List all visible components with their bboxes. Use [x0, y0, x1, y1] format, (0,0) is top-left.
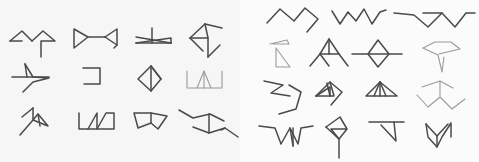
- glyph-right-r0-c0: [267, 8, 318, 32]
- glyph-left-r0-c1: [74, 29, 117, 48]
- glyph-right-r3-c2: [369, 122, 404, 141]
- glyph-left-r0-c2: [136, 28, 171, 43]
- glyph-stroke: [190, 38, 203, 51]
- glyph-left-r0-c3: [190, 24, 222, 57]
- glyph-stroke: [332, 9, 386, 24]
- glyph-right-r2-c3: [417, 81, 465, 109]
- glyph-stroke: [10, 31, 32, 41]
- glyph-right-r1-c2: [352, 40, 402, 67]
- glyph-left-r2-c2: [134, 113, 167, 129]
- glyph-right-r1-c0: [270, 40, 290, 67]
- glyph-stroke: [310, 54, 329, 66]
- glyph-left-r1-c0: [12, 64, 49, 92]
- glyph-stroke: [423, 48, 444, 72]
- glyph-stroke: [417, 95, 465, 109]
- glyph-left-r2-c0: [20, 108, 48, 135]
- glyph-stroke: [426, 124, 448, 136]
- glyph-stroke: [381, 122, 396, 141]
- glyph-left-r1-c3: [187, 71, 222, 88]
- glyph-left-r2-c3: [179, 110, 238, 137]
- glyph-left-r1-c2: [138, 66, 161, 91]
- glyph-stroke: [105, 29, 117, 45]
- glyph-stroke: [23, 64, 49, 92]
- glyph-stroke: [267, 8, 318, 32]
- glyph-stroke: [151, 66, 161, 79]
- glyph-stroke: [423, 42, 460, 54]
- glyph-stroke: [422, 81, 453, 88]
- glyph-stroke: [105, 37, 117, 48]
- glyph-right-r1-c3: [423, 42, 460, 72]
- glyph-stroke: [205, 24, 208, 38]
- glyph-right-r2-c1: [316, 82, 342, 105]
- glyph-stroke: [88, 113, 97, 129]
- glyph-right-r3-c0: [259, 126, 313, 146]
- glyph-right-r0-c1: [332, 9, 386, 24]
- glyph-right-r3-c1: [326, 117, 347, 158]
- glyph-stroke: [320, 39, 348, 66]
- glyph-right-r3-c3: [426, 123, 451, 147]
- glyph-left-r0-c0: [10, 31, 55, 57]
- glyph-stroke: [193, 127, 238, 137]
- glyph-left-r1-c1: [83, 68, 100, 84]
- glyph-right-r2-c0: [264, 81, 301, 114]
- glyph-stroke: [138, 66, 161, 91]
- glyph-stroke: [270, 40, 289, 44]
- glyph-stroke: [442, 13, 475, 27]
- glyph-stroke: [259, 126, 293, 146]
- glyph-stroke: [208, 45, 220, 57]
- glyph-stroke: [20, 108, 33, 135]
- glyph-stroke: [179, 110, 224, 121]
- glyph-stroke: [74, 29, 88, 48]
- glyph-stroke: [190, 24, 205, 38]
- glyph-stroke: [33, 114, 48, 126]
- glyph-stroke: [276, 48, 290, 67]
- glyph-stroke: [279, 85, 301, 114]
- glyph-left-r2-c1: [79, 113, 114, 129]
- glyph-right-r0-c2: [394, 13, 475, 27]
- glyph-stroke: [32, 31, 55, 57]
- glyph-stroke: [83, 68, 100, 84]
- glyph-stroke: [205, 24, 222, 28]
- glyph-canvas: [0, 0, 479, 162]
- glyph-right-r1-c1: [310, 39, 348, 66]
- glyph-stroke: [394, 13, 442, 27]
- glyph-stroke: [264, 81, 290, 96]
- glyph-right-r2-c2: [366, 82, 397, 96]
- glyph-stroke: [22, 108, 33, 117]
